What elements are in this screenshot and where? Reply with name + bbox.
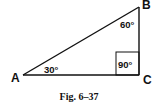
angle-label-c: 90° (118, 59, 133, 70)
right-triangle-diagram: A B C 30° 60° 90° Fig. 6–37 (0, 0, 159, 110)
figure-caption: Fig. 6–37 (60, 91, 99, 102)
vertex-label-a: A (11, 71, 20, 85)
vertex-label-b: B (142, 0, 151, 12)
angle-label-a: 30° (44, 64, 59, 75)
vertex-label-c: C (143, 73, 152, 87)
angle-label-b: 60° (120, 19, 135, 30)
